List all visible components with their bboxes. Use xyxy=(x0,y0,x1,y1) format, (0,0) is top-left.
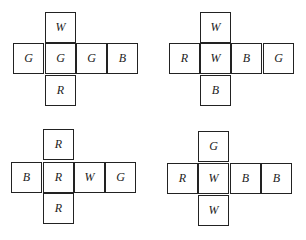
net-2-row-face-3: B xyxy=(231,43,262,74)
net-4-row-face-3: B xyxy=(230,163,261,194)
net-3-row-face-1: B xyxy=(11,162,42,193)
net-3-row-face-4: G xyxy=(105,162,136,193)
net-1-top-face: W xyxy=(45,12,76,43)
net-2-row-face-4: G xyxy=(263,43,294,74)
net-4-row-face-2: W xyxy=(198,163,229,194)
net-2-row-face-2: W xyxy=(200,43,231,74)
net-4-top-face: G xyxy=(198,131,229,162)
net-4-row-face-1: R xyxy=(167,163,198,194)
net-2-row-face-1: R xyxy=(169,43,200,74)
net-1-row-face-1: G xyxy=(13,43,44,74)
net-3-row-face-2: R xyxy=(43,162,74,193)
net-1-bottom-face: R xyxy=(45,75,76,106)
net-1-row-face-4: B xyxy=(107,43,138,74)
net-4-row-face-4: B xyxy=(261,163,292,194)
net-3-row-face-3: W xyxy=(74,162,105,193)
net-4-bottom-face: W xyxy=(198,195,229,226)
net-3-bottom-face: R xyxy=(43,193,74,224)
net-3-top-face: R xyxy=(43,129,74,160)
net-1-row-face-2: G xyxy=(45,43,76,74)
net-2-bottom-face: B xyxy=(200,75,231,106)
net-2-top-face: W xyxy=(200,12,231,43)
net-1-row-face-3: G xyxy=(76,43,107,74)
